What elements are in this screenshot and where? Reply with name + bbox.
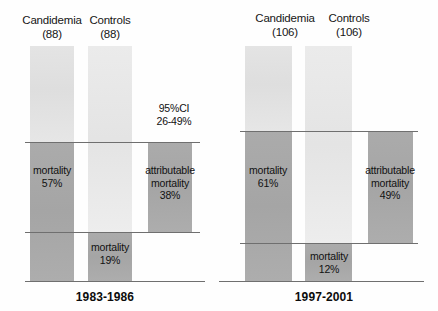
column-header-controls-2: Controls (106): [307, 12, 391, 39]
chart-panel-1997-2001: Candidemia (106) Controls (106) mortalit…: [219, 0, 438, 311]
column-header-controls-2-label: Controls: [307, 12, 391, 26]
label-attributable-mortality-2: attributable mortality 49%: [360, 164, 420, 202]
label-attributable-mortality-line2: mortality: [140, 177, 200, 190]
label-controls-mortality-2-value: 12%: [299, 263, 359, 276]
period-label-1997-2001: 1997-2001: [259, 290, 389, 304]
label-controls-mortality: mortality 19%: [80, 241, 140, 266]
attributable-mortality-chart: Candidemia (88) Controls (88) mortality …: [0, 0, 438, 311]
chart-panel-1983-1986: Candidemia (88) Controls (88) mortality …: [0, 0, 219, 311]
reference-line-lower-2: [240, 243, 418, 244]
bar-candidemia-total: [30, 46, 74, 142]
label-attributable-mortality-2-value: 49%: [360, 189, 420, 202]
bar-candidemia-mortality-2: [245, 131, 292, 281]
label-controls-mortality-2: mortality 12%: [299, 250, 359, 275]
column-header-controls-label: Controls: [68, 14, 152, 28]
label-attributable-mortality-2-line2: mortality: [360, 177, 420, 190]
baseline-axis: [25, 281, 205, 282]
bar-controls-total-2: [305, 46, 352, 243]
column-header-controls: Controls (88): [68, 14, 152, 41]
label-attributable-mortality-value: 38%: [140, 189, 200, 202]
annotation-confidence-interval: 95%CI 26-49%: [145, 102, 203, 127]
label-attributable-mortality-2-line1: attributable: [360, 164, 420, 177]
column-header-controls-count: (88): [68, 28, 152, 42]
label-controls-mortality-text: mortality: [80, 241, 140, 254]
reference-line-upper: [25, 142, 200, 143]
label-candidemia-mortality-text: mortality: [22, 164, 82, 177]
label-controls-mortality-value: 19%: [80, 254, 140, 267]
label-attributable-mortality: attributable mortality 38%: [140, 164, 200, 202]
label-candidemia-mortality-2-value: 61%: [238, 177, 298, 190]
label-candidemia-mortality: mortality 57%: [22, 164, 82, 189]
bar-candidemia-total-2: [245, 46, 292, 131]
label-candidemia-mortality-2-text: mortality: [238, 164, 298, 177]
label-candidemia-mortality-2: mortality 61%: [238, 164, 298, 189]
bar-controls-total: [88, 46, 132, 232]
baseline-axis-2: [219, 281, 424, 282]
bar-candidemia-mortality: [30, 142, 74, 281]
annotation-ci-label: 95%CI: [145, 102, 203, 115]
column-header-controls-2-count: (106): [307, 26, 391, 40]
reference-line-lower: [25, 232, 200, 233]
label-controls-mortality-2-text: mortality: [299, 250, 359, 263]
label-attributable-mortality-line1: attributable: [140, 164, 200, 177]
period-label-1983-1986: 1983-1986: [40, 290, 170, 304]
annotation-ci-range: 26-49%: [145, 115, 203, 128]
label-candidemia-mortality-value: 57%: [22, 177, 82, 190]
reference-line-upper-2: [240, 131, 418, 132]
